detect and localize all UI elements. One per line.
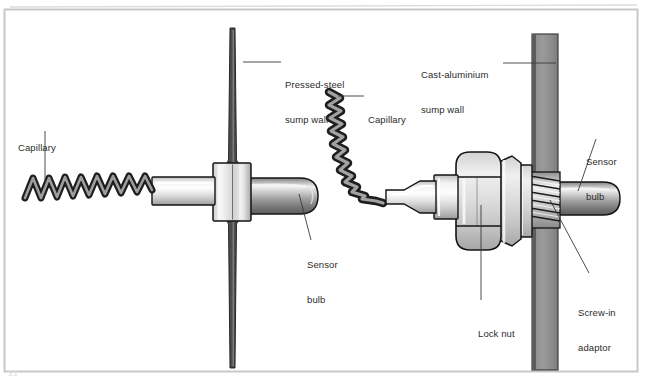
label-lock-nut-line1: Lock nut: [478, 328, 515, 340]
label-screw-in-adaptor-line2: adaptor: [578, 342, 616, 354]
label-cast-aluminium-line2: sump wall: [421, 104, 488, 116]
label-capillary-left: Capillary: [18, 119, 56, 177]
label-sensor-bulb-left: Sensor bulb: [307, 236, 338, 328]
label-cast-aluminium-line1: Cast-aluminium: [421, 69, 488, 81]
right-collar: [434, 175, 458, 219]
label-cast-aluminium-sump-wall: Cast-aluminium sump wall: [421, 46, 488, 138]
label-sensor-bulb-left-line2: bulb: [307, 294, 338, 306]
figure-top-rule: [10, 5, 637, 7]
label-sensor-bulb-right-line2: bulb: [586, 191, 617, 203]
label-pressed-steel-line1: Pressed-steel: [285, 79, 344, 91]
technical-diagram-figure: Capillary Pressed-steel sump wall Capill…: [0, 0, 645, 382]
label-screw-in-adaptor-line1: Screw-in: [578, 307, 616, 319]
label-pressed-steel-sump-wall: Pressed-steel sump wall: [285, 56, 344, 148]
label-screw-in-adaptor: Screw-in adaptor: [578, 284, 616, 376]
label-lock-nut: Lock nut: [478, 305, 515, 363]
label-pressed-steel-line2: sump wall: [285, 114, 344, 126]
label-capillary-left-line1: Capillary: [18, 142, 56, 154]
label-sensor-bulb-right-line1: Sensor: [586, 156, 617, 168]
screw-in-adaptor-thread: [530, 172, 560, 228]
label-sensor-bulb-right: Sensor bulb: [586, 133, 617, 225]
label-capillary-middle: Capillary: [368, 91, 406, 149]
label-capillary-middle-line1: Capillary: [368, 114, 406, 126]
label-sensor-bulb-left-line1: Sensor: [307, 259, 338, 271]
left-stem: [152, 177, 215, 205]
page-marker: 3.1: [8, 370, 18, 377]
